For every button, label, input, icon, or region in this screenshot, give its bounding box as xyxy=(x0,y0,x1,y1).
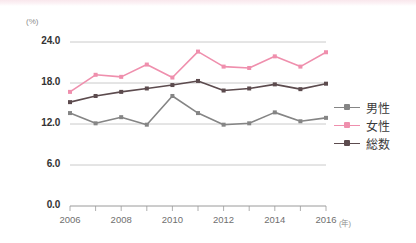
data-point-marker xyxy=(273,54,277,58)
data-point-marker xyxy=(222,65,226,69)
legend-label: 女性 xyxy=(366,117,390,134)
data-point-marker xyxy=(68,90,72,94)
data-point-marker xyxy=(94,94,98,98)
legend-item-3: 総数 xyxy=(334,136,390,151)
data-point-marker xyxy=(196,111,200,115)
data-point-marker xyxy=(247,86,251,90)
data-point-marker xyxy=(94,73,98,77)
data-point-marker xyxy=(324,82,328,86)
legend-swatch-icon xyxy=(334,138,360,150)
legend-label: 男性 xyxy=(366,99,390,116)
legend-item-2: 女性 xyxy=(334,118,390,133)
data-point-marker xyxy=(324,50,328,54)
series-line-3 xyxy=(70,81,326,102)
data-point-marker xyxy=(145,63,149,67)
data-point-marker xyxy=(170,83,174,87)
data-point-marker xyxy=(247,66,251,70)
chart-legend: 男性女性総数 xyxy=(334,100,390,151)
data-point-marker xyxy=(145,123,149,127)
series-line-2 xyxy=(70,52,326,92)
data-point-marker xyxy=(273,110,277,114)
data-point-marker xyxy=(196,50,200,54)
data-point-marker xyxy=(170,76,174,80)
series-line-1 xyxy=(70,96,326,125)
chart-container: (%) 0.06.012.018.024.0 20062008201020122… xyxy=(0,0,416,243)
data-point-marker xyxy=(273,82,277,86)
data-point-marker xyxy=(298,65,302,69)
data-point-marker xyxy=(145,86,149,90)
data-point-marker xyxy=(119,75,123,79)
data-point-marker xyxy=(119,115,123,119)
data-point-marker xyxy=(196,79,200,83)
legend-swatch-icon xyxy=(334,102,360,114)
data-point-marker xyxy=(298,87,302,91)
data-point-marker xyxy=(298,119,302,123)
data-point-marker xyxy=(324,116,328,120)
data-point-marker xyxy=(119,90,123,94)
legend-swatch-icon xyxy=(334,120,360,132)
data-point-marker xyxy=(170,94,174,98)
data-point-marker xyxy=(222,89,226,93)
data-point-marker xyxy=(247,121,251,125)
data-point-marker xyxy=(222,123,226,127)
data-point-marker xyxy=(94,121,98,125)
data-point-marker xyxy=(68,111,72,115)
legend-item-1: 男性 xyxy=(334,100,390,115)
data-point-marker xyxy=(68,100,72,104)
legend-label: 総数 xyxy=(366,135,390,152)
